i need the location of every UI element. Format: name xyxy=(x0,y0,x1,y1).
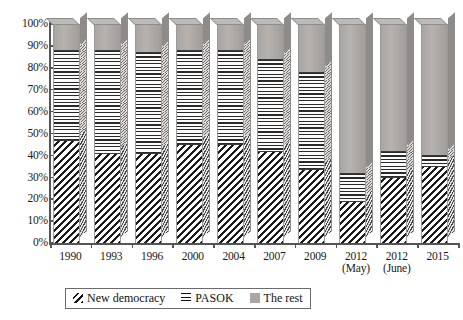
bar-side-segment-pasok xyxy=(80,39,86,134)
x-axis-label-year: 2012 xyxy=(386,250,408,262)
bar-side-segment-the-rest xyxy=(121,13,127,44)
bar-front-face xyxy=(176,24,203,243)
bar-front-face xyxy=(257,24,284,243)
bar-segment-new-democracy[interactable] xyxy=(258,151,283,243)
legend-item-label: New democracy xyxy=(87,291,165,305)
x-axis-label: 2004 xyxy=(213,250,254,262)
bar-segment-the-rest[interactable] xyxy=(54,24,79,50)
bar-segment-pasok[interactable] xyxy=(381,151,406,177)
bar-column[interactable] xyxy=(217,24,244,243)
bar-column[interactable] xyxy=(298,24,325,243)
bar-segment-new-democracy[interactable] xyxy=(54,140,79,243)
bar-side-segment-the-rest xyxy=(448,13,454,149)
bar-segment-the-rest[interactable] xyxy=(422,24,447,155)
bar-segment-new-democracy[interactable] xyxy=(299,169,324,243)
bar-column[interactable] xyxy=(176,24,203,243)
bar-segment-the-rest[interactable] xyxy=(95,24,120,50)
x-axis-tick-mark xyxy=(295,243,297,248)
bar-segment-pasok[interactable] xyxy=(340,173,365,201)
bar-side-face xyxy=(284,12,291,237)
bar-segment-the-rest[interactable] xyxy=(381,24,406,151)
bar-front-face xyxy=(421,24,448,243)
diagonal-hatch-swatch xyxy=(73,293,83,303)
solid-gray-swatch xyxy=(250,293,260,303)
bar-segment-new-democracy[interactable] xyxy=(218,144,243,243)
bar-column[interactable] xyxy=(53,24,80,243)
legend-item[interactable]: PASOK xyxy=(181,291,233,305)
x-axis-label-year: 2009 xyxy=(304,250,326,262)
bar-top-face xyxy=(373,18,407,25)
bar-segment-pasok[interactable] xyxy=(422,155,447,166)
plot-area xyxy=(50,24,458,243)
bar-side-face xyxy=(407,12,414,237)
y-axis-tick-text: 60% xyxy=(28,106,52,118)
bar-segment-the-rest[interactable] xyxy=(340,24,365,173)
bar-segment-new-democracy[interactable] xyxy=(381,177,406,243)
legend-item[interactable]: New democracy xyxy=(73,291,165,305)
x-axis-tick-mark xyxy=(254,243,256,248)
bar-top-face xyxy=(291,18,325,25)
x-axis-tick-mark xyxy=(458,243,460,248)
x-axis-label: 1996 xyxy=(132,250,173,262)
chart-legend: New democracyPASOKThe rest xyxy=(65,288,311,309)
bar-segment-pasok[interactable] xyxy=(136,52,161,153)
bar-column[interactable] xyxy=(135,24,162,243)
y-axis-tick-text: 10% xyxy=(28,215,52,227)
bar-segment-new-democracy[interactable] xyxy=(95,153,120,243)
bar-top-face xyxy=(250,18,284,25)
x-axis-label-year: 2015 xyxy=(426,250,448,262)
bar-front-face xyxy=(217,24,244,243)
y-axis-tick-text: 30% xyxy=(28,172,52,184)
bar-segment-pasok[interactable] xyxy=(218,50,243,144)
bar-segment-pasok[interactable] xyxy=(54,50,79,140)
bar-side-segment-the-rest xyxy=(284,13,290,53)
bar-segment-the-rest[interactable] xyxy=(136,24,161,52)
bar-column[interactable] xyxy=(94,24,121,243)
bar-segment-new-democracy[interactable] xyxy=(340,201,365,243)
bar-column[interactable] xyxy=(257,24,284,243)
y-axis-tick-text: 40% xyxy=(28,150,52,162)
bar-segment-new-democracy[interactable] xyxy=(422,166,447,243)
bar-side-face xyxy=(121,12,128,237)
bar-segment-pasok[interactable] xyxy=(95,50,120,153)
bar-side-segment-the-rest xyxy=(162,13,168,47)
bar-segment-new-democracy[interactable] xyxy=(177,144,202,243)
bar-segment-the-rest[interactable] xyxy=(177,24,202,50)
bar-top-face xyxy=(169,18,203,25)
x-axis-tick-mark xyxy=(336,243,338,248)
bar-side-segment-pasok xyxy=(407,140,413,171)
bar-segment-the-rest[interactable] xyxy=(258,24,283,59)
y-axis-tick-text: 50% xyxy=(28,128,52,140)
bar-column[interactable] xyxy=(339,24,366,243)
bar-column[interactable] xyxy=(380,24,407,243)
legend-item[interactable]: The rest xyxy=(250,291,303,305)
x-axis-label-year: 2007 xyxy=(263,250,285,262)
bar-segment-new-democracy[interactable] xyxy=(136,153,161,243)
x-axis-label-year: 2000 xyxy=(182,250,204,262)
bar-side-face xyxy=(162,12,169,237)
y-axis-tick-text: 70% xyxy=(28,84,52,96)
bar-segment-pasok[interactable] xyxy=(299,72,324,168)
bar-column[interactable] xyxy=(421,24,448,243)
x-axis-tick-mark xyxy=(213,243,215,248)
bar-side-segment-new-democracy xyxy=(448,155,454,237)
bar-side-segment-new-democracy xyxy=(325,158,331,237)
bar-side-segment-new-democracy xyxy=(407,166,413,237)
x-axis-tick-mark xyxy=(376,243,378,248)
x-axis-tick-mark xyxy=(417,243,419,248)
bar-side-segment-new-democracy xyxy=(121,142,127,237)
x-axis-tick-mark xyxy=(132,243,134,248)
bar-front-face xyxy=(380,24,407,243)
y-axis-tick-text: 80% xyxy=(28,62,52,74)
bar-side-segment-pasok xyxy=(284,48,290,145)
bar-top-face xyxy=(413,18,447,25)
bar-side-segment-new-democracy xyxy=(203,133,209,237)
legend-item-label: PASOK xyxy=(195,291,233,305)
bar-segment-pasok[interactable] xyxy=(177,50,202,144)
bar-segment-the-rest[interactable] xyxy=(299,24,324,72)
bar-side-segment-pasok xyxy=(366,162,372,196)
bar-segment-the-rest[interactable] xyxy=(218,24,243,50)
bar-side-face xyxy=(366,12,373,237)
bar-segment-pasok[interactable] xyxy=(258,59,283,151)
bar-side-segment-pasok xyxy=(121,39,127,147)
